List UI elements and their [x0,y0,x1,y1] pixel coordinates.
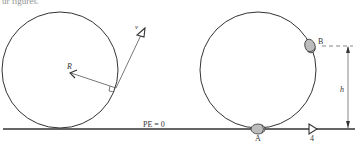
point-a-label: A [255,134,261,143]
direction-label: 4 [310,134,314,143]
bead-b [303,38,317,55]
velocity-arrow-icon [137,28,145,37]
velocity-label: v [135,23,139,31]
left-figure: R v PE = 0 [2,12,165,129]
radius-label: R [66,62,72,71]
loop-circle-left [2,12,118,128]
point-b-label: B [318,37,323,46]
velocity-line [116,35,141,88]
height-label: h [340,85,344,94]
right-figure: A B h 4 [200,12,353,143]
arrow-down-icon [346,121,350,128]
loop-circle-right [200,12,316,128]
header-partial-text: ur figures. [2,0,39,6]
direction-arrow-icon [309,124,317,134]
physics-diagram: ur figures. R v PE = 0 A B [0,0,355,143]
arrow-up-icon [346,46,350,53]
potential-energy-zero-label: PE = 0 [143,120,165,129]
radius-line [71,73,116,88]
bead-a [251,124,265,134]
